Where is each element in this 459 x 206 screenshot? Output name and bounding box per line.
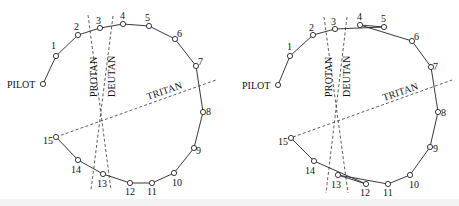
cap-label-14: 14 [305,165,315,176]
pilot-label: PILOT [7,79,35,90]
cap-marker-11 [149,180,154,185]
cap-marker-13 [100,171,105,176]
cap-marker-4 [357,22,362,27]
cap-marker-9 [427,144,432,149]
cap-label-14: 14 [71,164,81,175]
cap-label-8: 8 [206,106,211,117]
cap-label-2: 2 [309,22,314,33]
cap-marker-12 [127,180,132,185]
cap-label-8: 8 [441,107,446,118]
cap-marker-pilot [275,82,280,87]
protan-label: PROTAN [88,57,99,97]
deutan-axis-line [91,16,113,190]
tritan-axis-line [56,80,216,137]
color-cap-arrangement-figure: PROTAN DEUTAN TRITAN PILOT 1 2 3 4 5 6 7… [0,0,459,206]
cap-marker-5 [381,24,386,29]
left-panel: PROTAN DEUTAN TRITAN PILOT 1 2 3 4 5 6 7… [7,10,216,197]
deutan-label: DEUTAN [106,55,117,97]
cap-marker-3 [97,25,102,30]
cap-label-7: 7 [433,61,438,72]
cap-label-5: 5 [145,12,150,23]
right-panel: PROTAN DEUTAN TRITAN PILOT 1 2 3 4 5 6 7… [242,11,452,198]
cap-label-15: 15 [43,135,53,146]
cap-marker-8 [435,109,440,114]
cap-marker-14 [75,157,80,162]
cap-labels: PILOT 1 2 3 4 5 6 7 8 9 10 11 12 13 14 1… [7,10,211,197]
cap-marker-14 [311,158,316,163]
cap-label-4: 4 [120,10,125,21]
pilot-label: PILOT [242,80,270,91]
cap-marker-5 [146,23,151,28]
cap-label-11: 11 [147,186,157,197]
cap-label-5: 5 [381,13,386,24]
cap-marker-10 [171,170,176,175]
cap-label-10: 10 [409,179,419,190]
protan-label: PROTAN [323,57,334,97]
cap-label-4: 4 [357,11,362,22]
cap-label-13: 13 [97,178,107,189]
cap-label-6: 6 [177,28,182,39]
tritan-label: TRITAN [381,80,420,102]
cap-marker-4 [120,21,125,26]
cap-marker-pilot [40,81,45,86]
cap-marker-15 [288,135,293,140]
cap-marker-8 [200,109,205,114]
cap-marker-2 [310,32,315,37]
cap-label-12: 12 [125,186,135,197]
cap-label-9: 9 [433,143,438,154]
cap-label-11: 11 [383,187,393,198]
cap-label-3: 3 [331,16,336,27]
cap-marker-15 [53,134,58,139]
cap-label-2: 2 [74,21,79,32]
cap-marker-2 [75,32,80,37]
cap-label-3: 3 [96,15,101,26]
cap-label-13: 13 [331,179,341,190]
protan-axis-line [88,15,111,190]
cap-marker-1 [53,53,58,58]
cap-label-9: 9 [196,145,201,156]
cap-marker-3 [332,26,337,31]
bottom-margin-strip [0,199,459,206]
cap-label-1: 1 [287,41,292,52]
cap-sequence-path [43,24,203,183]
cap-sequence-path [278,25,438,184]
cap-marker-12 [363,181,368,186]
cap-marker-1 [287,53,292,58]
cap-label-6: 6 [414,31,419,42]
cap-marker-10 [407,172,412,177]
cap-label-7: 7 [198,56,203,67]
deutan-axis-line [326,17,347,193]
cap-label-1: 1 [51,40,56,51]
tritan-axis-line [293,80,452,137]
cap-label-12: 12 [360,187,370,198]
deutan-label: DEUTAN [341,55,352,97]
cap-marker-13 [335,172,340,177]
cap-label-15: 15 [278,136,288,147]
cap-marker-11 [385,181,390,186]
cap-label-10: 10 [172,177,182,188]
